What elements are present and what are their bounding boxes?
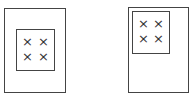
x-mark-icon: ×	[37, 35, 50, 48]
left-inner-box: × × × ×	[16, 29, 55, 71]
x-mark-icon: ×	[137, 17, 150, 30]
x-mark-icon: ×	[21, 35, 34, 48]
x-mark-icon: ×	[137, 32, 150, 45]
x-mark-icon: ×	[37, 50, 50, 63]
x-mark-icon: ×	[152, 17, 165, 30]
x-mark-icon: ×	[152, 32, 165, 45]
right-inner-box: × × × ×	[132, 11, 170, 54]
x-mark-icon: ×	[21, 50, 34, 63]
